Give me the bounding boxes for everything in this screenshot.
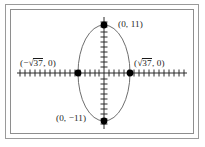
label-vertex-bottom-text: (0, −11): [56, 113, 86, 123]
vertex-marker-bottom: [101, 118, 108, 125]
label-vertex-right: (√37, 0): [134, 57, 165, 68]
vertex-marker-top: [101, 22, 108, 29]
vertex-marker-left: [75, 70, 82, 77]
label-vertex-left-suffix: , 0): [43, 58, 56, 68]
label-vertex-bottom: (0, −11): [56, 114, 86, 123]
label-vertex-top-text: (0, 11): [118, 19, 143, 29]
plot-area: [11, 10, 193, 133]
vertex-marker-right: [127, 70, 134, 77]
figure-container: (0, 11) (−√37, 0) (√37, 0) (0, −11): [0, 0, 205, 147]
radical-group-right: √37: [137, 57, 152, 68]
radical-group-left: √37: [28, 57, 43, 68]
radicand-right: 37: [142, 58, 152, 68]
label-vertex-left: (−√37, 0): [20, 57, 56, 68]
label-vertex-left-prefix: (−: [20, 58, 28, 68]
radicand-left: 37: [33, 58, 43, 68]
label-vertex-top: (0, 11): [118, 20, 143, 29]
coordinate-plot-svg: [11, 10, 193, 133]
label-vertex-right-suffix: , 0): [152, 58, 165, 68]
